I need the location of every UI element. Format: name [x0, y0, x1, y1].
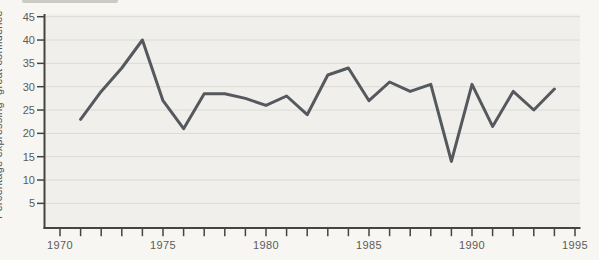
x-tick-label: 1975 [150, 239, 176, 251]
y-tick-label: 25 [23, 104, 35, 116]
y-tick-label: 40 [23, 34, 35, 46]
x-tick-label: 1990 [459, 239, 485, 251]
x-axis-ticks: 197019751980198519901995 [47, 229, 588, 251]
confidence-time-plot-figure: 5101520253035404519701975198019851990199… [0, 0, 599, 260]
x-tick-label: 1995 [562, 239, 588, 251]
time-plot-canvas: 5101520253035404519701975198019851990199… [0, 0, 599, 260]
y-tick-label: 5 [29, 197, 35, 209]
y-tick-label: 30 [23, 81, 35, 93]
y-axis-title: Percentage expressing "great confidence" [0, 6, 4, 219]
x-tick-label: 1980 [253, 239, 279, 251]
x-tick-label: 1985 [356, 239, 382, 251]
y-tick-label: 45 [23, 11, 35, 23]
y-axis-ticks: 51015202530354045 [23, 11, 45, 210]
x-tick-label: 1970 [47, 239, 73, 251]
plot-area-background [45, 14, 581, 228]
y-tick-label: 10 [23, 174, 35, 186]
y-tick-label: 20 [23, 127, 35, 139]
y-tick-label: 15 [23, 151, 35, 163]
y-tick-label: 35 [23, 57, 35, 69]
